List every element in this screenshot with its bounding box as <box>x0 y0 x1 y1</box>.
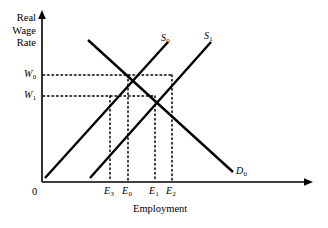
origin-label: 0 <box>32 187 37 198</box>
curve-s1-subscript: 1 <box>209 35 212 42</box>
x-tick-label-e1: E1 <box>149 186 159 196</box>
curve-d0-subscript: 0 <box>244 170 247 177</box>
curve-label-d0: D0 <box>236 166 247 176</box>
x-axis <box>42 178 313 186</box>
x-axis-title: Employment <box>133 204 187 215</box>
y-tick-w1-base: W <box>24 89 32 100</box>
y-tick-w1-subscript: 1 <box>33 94 36 101</box>
curve-s0-subscript: 0 <box>166 37 169 44</box>
y-axis-title-line-3: Rate <box>0 37 36 50</box>
x-tick-e1-subscript: 1 <box>155 190 158 197</box>
x-tick-label-e3: E3 <box>104 186 114 196</box>
employment-guide-lines <box>110 75 172 181</box>
y-tick-w0-base: W <box>24 68 32 79</box>
curve-d0-base: D <box>236 165 243 176</box>
x-tick-label-e0: E0 <box>122 186 132 196</box>
x-tick-e0-subscript: 0 <box>128 190 131 197</box>
y-axis-title: Real Wage Rate <box>0 12 36 50</box>
y-axis-title-line-1: Real <box>0 12 36 25</box>
y-axis-arrowhead <box>38 10 46 19</box>
curve-label-s0: S0 <box>161 33 169 43</box>
y-tick-label-w0: W0 <box>24 69 36 79</box>
x-axis-arrowhead <box>304 178 313 186</box>
x-tick-e3-subscript: 3 <box>110 190 113 197</box>
curve-label-s1: S1 <box>204 31 212 41</box>
y-tick-w0-subscript: 0 <box>33 73 36 80</box>
y-axis-title-line-2: Wage <box>0 25 36 38</box>
x-tick-e2-subscript: 2 <box>172 190 175 197</box>
wage-guide-lines <box>43 75 172 96</box>
x-tick-label-e2: E2 <box>166 186 176 196</box>
y-tick-label-w1: W1 <box>24 90 36 100</box>
supply-demand-figure: Real Wage Rate 0 Employment W0 W1 E3 E0 … <box>0 0 328 228</box>
